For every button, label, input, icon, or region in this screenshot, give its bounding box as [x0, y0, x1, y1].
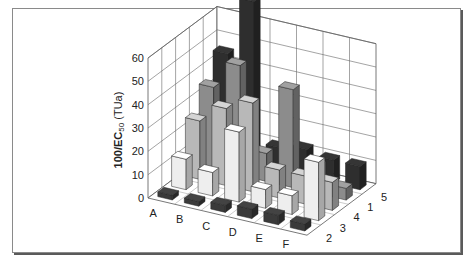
category-label: D	[229, 226, 237, 238]
depth-label: 3	[340, 222, 346, 234]
depth-label: 4	[354, 211, 360, 223]
bar-chart-3d: 0102030405060100/EC50 (TUa)ABCDEF23415	[0, 0, 473, 259]
y-tick-label: 20	[132, 145, 144, 157]
bar-2-D	[237, 201, 258, 218]
category-label: E	[256, 232, 263, 244]
y-tick-label: 30	[132, 122, 144, 134]
y-tick-label: 50	[132, 75, 144, 87]
bar-3-F	[304, 154, 325, 220]
bar-3-A	[172, 151, 193, 189]
y-tick-label: 10	[132, 169, 144, 181]
depth-label: 1	[367, 201, 373, 213]
depth-label: 5	[381, 191, 387, 203]
depth-label: 2	[326, 232, 332, 244]
bar-3-B	[198, 165, 219, 196]
bar-2-E	[264, 207, 285, 224]
bar-3-C	[225, 124, 246, 202]
y-tick-label: 0	[138, 192, 144, 204]
y-tick-label: 60	[132, 52, 144, 64]
y-tick-label: 40	[132, 99, 144, 111]
y-axis-ticks: 0102030405060	[132, 52, 144, 204]
y-axis-label: 100/EC50 (TUa)	[112, 92, 126, 169]
category-label: F	[282, 238, 289, 250]
category-label: C	[202, 220, 210, 232]
category-label: A	[150, 207, 158, 219]
category-label: B	[176, 213, 183, 225]
